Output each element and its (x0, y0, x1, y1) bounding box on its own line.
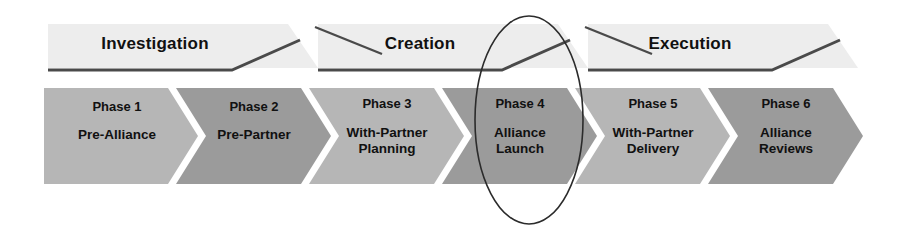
phase-name-3: With-Partner Planning (319, 125, 455, 157)
phase-name-5-line2: Delivery (627, 141, 680, 156)
phase-name-3-line1: With-Partner (347, 125, 428, 140)
phase-name-6: Alliance Reviews (718, 125, 854, 157)
phase-name-5-line1: With-Partner (613, 125, 694, 140)
phase-name-6-line2: Reviews (759, 141, 813, 156)
phase-name-3-line2: Planning (359, 141, 416, 156)
phase-number-4: Phase 4 (452, 96, 588, 111)
phase-name-4-line2: Launch (496, 141, 544, 156)
stage-label-investigation: Investigation (0, 34, 310, 54)
lifecycle-diagram: Investigation Creation Execution Phase 1… (0, 0, 897, 240)
phase-number-6: Phase 6 (718, 96, 854, 111)
phase-name-2: Pre-Partner (186, 127, 322, 143)
phase-name-1: Pre-Alliance (44, 127, 190, 143)
phase-name-6-line1: Alliance (760, 125, 812, 140)
phase-number-2: Phase 2 (186, 99, 322, 114)
phase-name-4: Alliance Launch (452, 125, 588, 157)
phase-name-5: With-Partner Delivery (585, 125, 721, 157)
phase-name-4-line1: Alliance (494, 125, 546, 140)
stage-label-execution: Execution (600, 34, 780, 54)
stage-label-creation: Creation (330, 34, 510, 54)
phase-number-1: Phase 1 (44, 99, 190, 114)
phase-number-5: Phase 5 (585, 96, 721, 111)
phase-number-3: Phase 3 (319, 96, 455, 111)
